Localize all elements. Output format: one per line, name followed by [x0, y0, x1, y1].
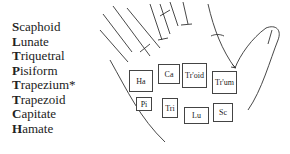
bone-box-trapezoid: Tr'oid	[182, 63, 207, 88]
bone-box-lunate: Lu	[184, 107, 209, 124]
carpal-bones-diagram: Scaphoid Lunate Triquetral Pisiform Trap…	[0, 0, 290, 154]
bone-box-trapezium: Tr'um	[212, 71, 237, 94]
bone-box-capitate: Ca	[158, 64, 180, 84]
bone-box-scaphoid: Sc	[213, 103, 233, 122]
bone-box-pisiform: Pi	[136, 97, 152, 111]
bone-box-hamate: Ha	[129, 70, 153, 92]
bone-box-triquetral: Tri	[162, 98, 178, 118]
